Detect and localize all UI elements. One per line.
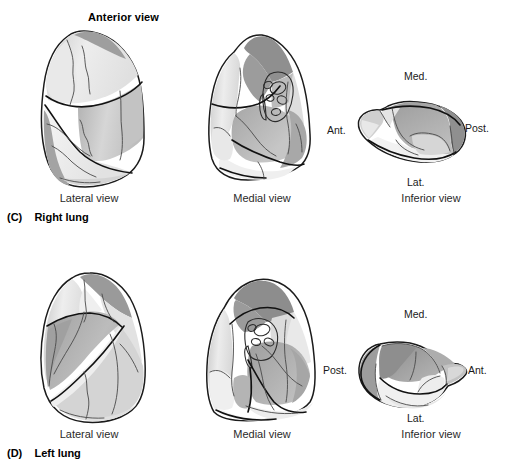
row-name-left-lung: Left lung (34, 447, 80, 459)
caption-left-medial: Medial view (212, 428, 312, 440)
lung-segments-figure: Anterior view (0, 0, 509, 473)
row-tag-d: (D) (7, 447, 22, 459)
left-lung-medial-illustration (190, 268, 330, 428)
caption-right-medial: Medial view (212, 192, 312, 204)
orientation-right-inferior-left: Ant. (327, 124, 346, 136)
row-tag-c: (C) (7, 211, 22, 223)
caption-left-inferior: Inferior view (381, 428, 481, 440)
orientation-left-inferior-bottom: Lat. (407, 412, 425, 424)
row-caption-right-lung: (C) Right lung (7, 211, 89, 223)
figure-title: Anterior view (88, 11, 159, 23)
caption-right-inferior: Inferior view (381, 192, 481, 204)
right-lung-medial-illustration (192, 28, 322, 193)
orientation-right-inferior-top: Med. (404, 70, 427, 82)
orientation-left-inferior-left: Post. (323, 364, 347, 376)
right-lung-inferior-illustration (352, 84, 472, 174)
row-caption-left-lung: (D) Left lung (7, 447, 81, 459)
left-lung-lateral-illustration (24, 268, 154, 428)
orientation-left-inferior-top: Med. (404, 308, 427, 320)
caption-right-lateral: Lateral view (39, 192, 139, 204)
row-name-right-lung: Right lung (34, 211, 88, 223)
left-lung-inferior-illustration (350, 322, 475, 417)
caption-left-lateral: Lateral view (39, 428, 139, 440)
right-lung-lateral-illustration (22, 28, 157, 193)
orientation-left-inferior-right: Ant. (468, 364, 487, 376)
orientation-right-inferior-right: Post. (465, 122, 489, 134)
orientation-right-inferior-bottom: Lat. (407, 176, 425, 188)
